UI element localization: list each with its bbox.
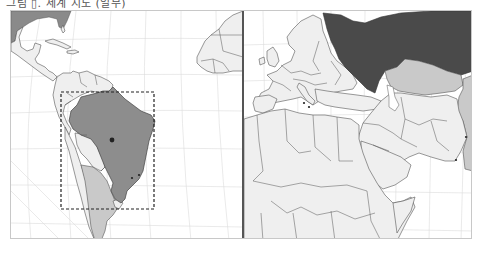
west-africa xyxy=(197,11,243,73)
city-marker-rio xyxy=(138,174,140,176)
world-map xyxy=(10,10,472,239)
capital-marker-brasilia xyxy=(110,138,115,143)
eurasia-map-svg xyxy=(244,11,472,238)
mexico-central-america xyxy=(11,27,57,81)
americas-map-svg xyxy=(11,11,243,238)
city-marker-italy-1 xyxy=(303,102,305,104)
map-panel-americas xyxy=(11,11,243,238)
map-panel-eurasia xyxy=(244,11,472,238)
city-marker-sao-paulo xyxy=(131,177,133,179)
balkans-turkey xyxy=(315,89,381,111)
figure-caption: 그림 ▯. 세계 지도 (일부) xyxy=(6,0,126,10)
hispaniola xyxy=(67,50,79,54)
city-marker-pakistan-1 xyxy=(465,136,467,138)
city-marker-italy-2 xyxy=(308,106,310,108)
iberia xyxy=(253,95,277,113)
cuba xyxy=(45,39,71,49)
city-marker-pakistan-2 xyxy=(455,159,457,161)
uk xyxy=(267,47,279,67)
